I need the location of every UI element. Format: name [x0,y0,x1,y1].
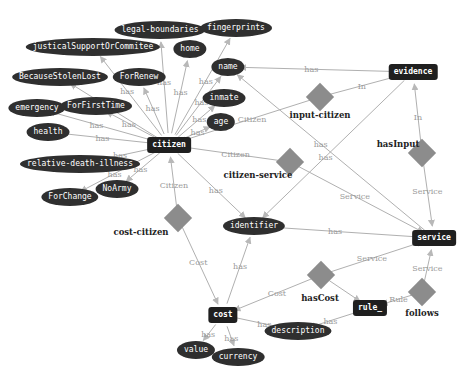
edge-label: Citizen [160,181,189,190]
attribute-node-currency[interactable]: currency [212,348,265,366]
class-node-cost[interactable]: cost [208,307,237,323]
attribute-node-inmate[interactable]: inmate [203,89,246,107]
edge-label: has [89,121,103,130]
class-node-citizen[interactable]: citizen [147,137,191,153]
edge-label: has [201,330,215,339]
edge-label: has [199,77,213,86]
edge-label: has [95,134,109,143]
attribute-node-emergency[interactable]: emergency [8,99,65,117]
edge-label: has [304,65,318,74]
relation-label-input-citizen: input-citizen [290,110,351,120]
edge-label: has [191,128,205,137]
attribute-node-ForChange[interactable]: ForChange [41,188,98,206]
edge-label: In [358,82,366,91]
edge-label: Cost [189,258,208,267]
attribute-node-ForFirstTime[interactable]: ForFirstTime [60,97,132,115]
edge-label: has [120,87,134,96]
attribute-node-description[interactable]: description [265,322,332,340]
edge-label: has [174,88,188,97]
edge-label: Rule [389,295,408,304]
edge-label: has [314,140,328,149]
attribute-node-BecauseStolenLost[interactable]: BecauseStolenLost [12,68,108,86]
attribute-node-ForRenew[interactable]: ForRenew [113,68,166,86]
attribute-node-home[interactable]: home [173,40,206,58]
edge-label: Cost [268,289,287,298]
attribute-node-name[interactable]: name [211,58,244,76]
edge-label: has [122,120,136,129]
relation-label-hasInput: hasInput [377,139,420,149]
edge-label: has [224,334,238,343]
edge-label: Service [412,264,443,273]
relation-label-cost-citizen: cost-citizen [113,227,168,237]
attribute-node-legal-boundaries[interactable]: legal-boundaries [114,21,205,39]
ontology-diagram: hashashashashashashashashashashashashash… [0,0,469,382]
attribute-node-fingerprints[interactable]: fingerprints [200,19,272,37]
class-node-service[interactable]: service [412,230,456,246]
attribute-node-NoArmy[interactable]: NoArmy [96,180,139,198]
edge-label: Citizen [238,115,267,124]
edge-label: Citizen [221,150,250,159]
relation-label-citizen-service: citizen-service [224,170,293,180]
relation-label-follows: follows [405,308,439,318]
class-node-evidence[interactable]: evidence [389,64,438,80]
class-node-rule[interactable]: rule_ [353,300,387,316]
attribute-node-relative-death-illness[interactable]: relative-death-illness [20,155,140,173]
edge-label: Service [357,254,388,263]
attribute-node-health[interactable]: health [27,123,70,141]
relation-label-hasCost: hasCost [301,293,339,303]
edge-citizen-legal-boundaries [161,42,168,133]
edge-evidence-identifier [263,80,405,217]
edge-label: has [209,186,223,195]
attribute-node-identifier[interactable]: identifier [223,217,285,235]
edge-label: has [145,104,159,113]
edge-label: has [192,115,206,124]
edge-label: Service [412,187,443,196]
edge-evidence-name [240,67,401,71]
edge-label: has [323,317,337,326]
edge-label: has [328,227,342,236]
edge-service-identifier [266,227,422,237]
attribute-node-value[interactable]: value [177,341,215,359]
edge-label: Service [340,192,371,201]
edge-label: In [414,113,422,122]
edge-label: has [319,153,333,162]
edge-label: has [233,262,247,271]
attribute-node-justical[interactable]: justicalSupportOrCommitee [26,38,160,56]
